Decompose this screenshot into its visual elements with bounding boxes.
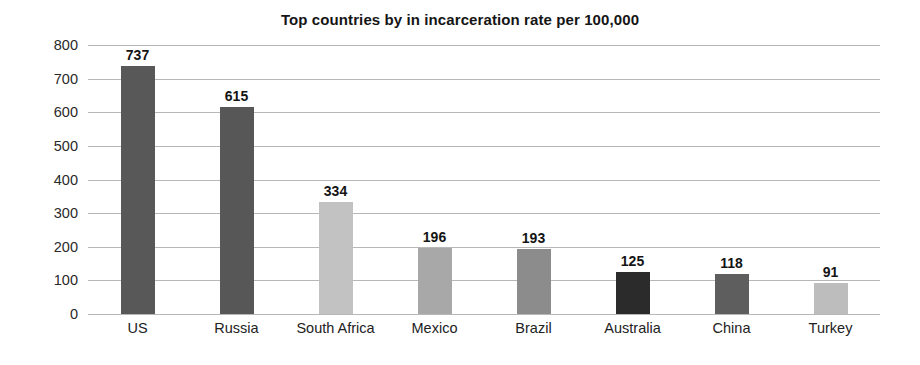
y-axis-tick-label: 600 — [54, 104, 78, 120]
x-axis-category-label: Turkey — [809, 320, 853, 336]
bar-slot: 193 — [484, 45, 583, 314]
x-axis-category-label: Brazil — [515, 320, 551, 336]
bar[interactable] — [319, 202, 353, 314]
y-axis-tick-label: 100 — [54, 272, 78, 288]
bar-value-label: 334 — [324, 183, 347, 199]
y-axis-tick-label: 700 — [54, 71, 78, 87]
bar[interactable] — [418, 248, 452, 314]
y-axis-tick-label: 800 — [54, 37, 78, 53]
bar-value-label: 196 — [423, 229, 446, 245]
y-axis-tick-label: 0 — [70, 306, 78, 322]
bar[interactable] — [616, 272, 650, 314]
bar[interactable] — [517, 249, 551, 314]
chart-title: Top countries by in incarceration rate p… — [0, 11, 920, 28]
bar-slot: 334 — [286, 45, 385, 314]
bar-slot: 91 — [781, 45, 880, 314]
bar[interactable] — [121, 66, 155, 314]
bar-value-label: 193 — [522, 230, 545, 246]
x-axis-category-label: Australia — [604, 320, 660, 336]
y-axis-tick-label: 300 — [54, 205, 78, 221]
x-axis-category-label: US — [127, 320, 147, 336]
bar-chart: Top countries by in incarceration rate p… — [0, 0, 920, 365]
x-axis-category-label: Russia — [214, 320, 258, 336]
x-axis-category-label: Mexico — [412, 320, 458, 336]
x-axis-category-label: China — [713, 320, 751, 336]
bar[interactable] — [220, 107, 254, 314]
bar-value-label: 615 — [225, 88, 248, 104]
bar-value-label: 91 — [823, 264, 839, 280]
bar-value-label: 118 — [720, 255, 743, 271]
y-axis-tick-label: 200 — [54, 239, 78, 255]
bar-value-label: 737 — [126, 47, 149, 63]
bar-series: 73761533419619312511891 — [88, 45, 880, 314]
bar-slot: 615 — [187, 45, 286, 314]
bar[interactable] — [814, 283, 848, 314]
bar-slot: 737 — [88, 45, 187, 314]
bar-slot: 118 — [682, 45, 781, 314]
x-axis-category-label: South Africa — [296, 320, 374, 336]
bar-slot: 125 — [583, 45, 682, 314]
bar[interactable] — [715, 274, 749, 314]
y-axis-tick-label: 500 — [54, 138, 78, 154]
x-axis-labels: USRussiaSouth AfricaMexicoBrazilAustrali… — [88, 320, 880, 352]
bar-value-label: 125 — [621, 253, 644, 269]
bar-slot: 196 — [385, 45, 484, 314]
y-axis-labels: 8007006005004003002001000 — [28, 45, 78, 314]
gridline — [88, 314, 880, 315]
y-axis-tick-label: 400 — [54, 172, 78, 188]
